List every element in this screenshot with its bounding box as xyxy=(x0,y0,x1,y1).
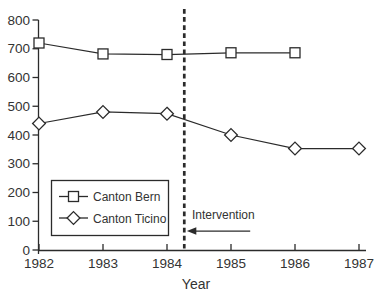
marker-diamond-canton-ticino xyxy=(161,107,174,120)
y-tick-label: 300 xyxy=(7,156,30,171)
y-tick-label: 100 xyxy=(7,214,30,229)
marker-square-canton-bern xyxy=(226,48,236,58)
marker-square-canton-bern xyxy=(34,38,44,48)
x-tick-label: 1983 xyxy=(88,256,118,271)
intervention-label: Intervention xyxy=(192,208,255,222)
legend-marker-square-canton-bern xyxy=(69,192,79,202)
x-tick-label: 1982 xyxy=(24,256,54,271)
marker-diamond-canton-ticino xyxy=(289,142,302,155)
y-tick-label: 200 xyxy=(7,185,30,200)
legend-label-canton-bern: Canton Bern xyxy=(93,190,160,204)
marker-diamond-canton-ticino xyxy=(33,117,46,130)
chart-canvas: 0100200300400500600700800198219831984198… xyxy=(0,0,380,300)
marker-square-canton-bern xyxy=(162,50,172,60)
marker-diamond-canton-ticino xyxy=(225,129,238,142)
y-tick-label: 700 xyxy=(7,41,30,56)
legend-label-canton-ticino: Canton Ticino xyxy=(93,212,167,226)
intervention-arrow-head xyxy=(187,227,197,235)
x-tick-label: 1984 xyxy=(152,256,183,271)
quasi-experiment-line-chart-figure: 0100200300400500600700800198219831984198… xyxy=(0,0,380,300)
y-tick-label: 800 xyxy=(7,13,30,28)
x-axis-title: Year xyxy=(182,276,211,292)
marker-square-canton-bern xyxy=(98,49,108,59)
marker-square-canton-bern xyxy=(290,48,300,58)
x-tick-label: 1986 xyxy=(280,256,310,271)
y-tick-label: 600 xyxy=(7,70,30,85)
y-tick-label: 500 xyxy=(7,99,30,114)
legend-box xyxy=(52,181,169,236)
x-tick-label: 1987 xyxy=(344,256,374,271)
y-tick-label: 400 xyxy=(7,128,30,143)
marker-diamond-canton-ticino xyxy=(353,142,366,155)
series-line-canton-ticino xyxy=(39,112,359,149)
x-tick-label: 1985 xyxy=(216,256,246,271)
marker-diamond-canton-ticino xyxy=(97,106,110,119)
